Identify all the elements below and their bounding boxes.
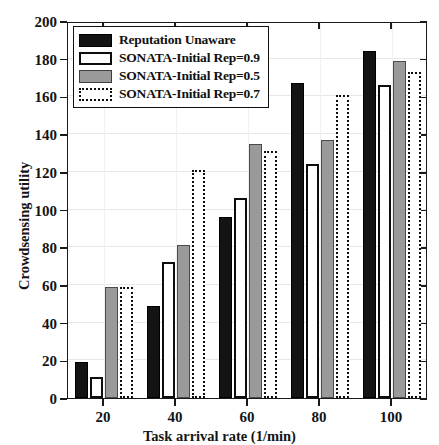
x-axis-tick-label: 40 (168, 409, 183, 426)
y-axis-tick-label: 40 (42, 317, 57, 332)
y-axis-tick (60, 323, 67, 325)
legend-label: SONATA-Initial Rep=0.9 (119, 50, 260, 66)
bar-80-series-2 (321, 140, 334, 398)
y-axis-tick-right (420, 134, 427, 136)
bar-80-series-3 (336, 95, 349, 398)
y-axis-tick (60, 134, 67, 136)
bar-100-series-2 (393, 61, 406, 398)
bar-20-series-0 (75, 362, 88, 398)
y-axis-tick-label: 60 (42, 279, 57, 294)
y-axis-tick-label: 20 (42, 354, 57, 369)
y-axis-tick-right (420, 210, 427, 212)
bar-100-series-0 (363, 51, 376, 398)
y-axis-tick-right (420, 97, 427, 99)
bar-40-series-2 (177, 245, 190, 398)
y-axis-tick (60, 97, 67, 99)
bar-60-series-1 (234, 198, 247, 398)
bar-20-series-2 (105, 287, 118, 398)
bar-20-series-3 (120, 287, 133, 398)
x-axis-tick-label: 100 (380, 409, 403, 426)
y-axis-tick-label: 120 (35, 166, 58, 181)
y-axis-tick-right (420, 398, 427, 400)
y-axis-tick (60, 210, 67, 212)
chart-legend: Reputation UnawareSONATA-Initial Rep=0.9… (73, 26, 269, 108)
y-axis-tick-label: 160 (35, 90, 58, 105)
y-axis-tick-label: 140 (35, 128, 58, 143)
bar-100-series-1 (378, 85, 391, 398)
x-axis-tick (102, 399, 104, 406)
legend-item: SONATA-Initial Rep=0.7 (79, 85, 260, 103)
y-axis-tick-right (420, 323, 427, 325)
legend-swatch-icon (79, 52, 112, 65)
y-axis-tick-label: 80 (42, 241, 57, 256)
x-axis-tick (246, 399, 248, 406)
legend-swatch-icon (79, 70, 112, 83)
y-axis-title: Crowdsensing utility (16, 162, 33, 290)
y-axis-tick (60, 172, 67, 174)
bar-40-series-1 (162, 262, 175, 398)
y-axis-tick-label: 0 (50, 392, 58, 407)
y-axis-tick-right (420, 172, 427, 174)
x-axis-tick-label: 60 (240, 409, 255, 426)
y-axis-tick (60, 21, 67, 23)
bar-80-series-0 (291, 83, 304, 398)
y-axis-tick-right (420, 361, 427, 363)
bar-40-series-3 (192, 170, 205, 398)
x-axis-tick (390, 399, 392, 406)
y-axis-tick (60, 247, 67, 249)
x-axis-title: Task arrival rate (1/min) (0, 428, 439, 445)
x-axis-tick (174, 399, 176, 406)
x-axis-tick-label: 80 (312, 409, 327, 426)
legend-item: Reputation Unaware (79, 31, 260, 49)
y-axis-tick-right (420, 285, 427, 287)
bar-60-series-0 (219, 217, 232, 398)
legend-label: SONATA-Initial Rep=0.5 (119, 68, 260, 84)
y-axis-tick-label: 200 (35, 15, 58, 30)
y-axis-tick-right (420, 21, 427, 23)
bar-60-series-3 (264, 151, 277, 398)
x-axis-tick-label: 20 (96, 409, 111, 426)
bar-20-series-1 (90, 377, 103, 398)
y-axis-tick (60, 285, 67, 287)
y-axis-tick-label: 180 (35, 53, 58, 68)
bar-60-series-2 (249, 144, 262, 398)
y-axis-tick (60, 398, 67, 400)
legend-swatch-icon (79, 88, 112, 101)
legend-item: SONATA-Initial Rep=0.5 (79, 67, 260, 85)
y-axis-tick-right (420, 247, 427, 249)
legend-label: Reputation Unaware (119, 32, 236, 48)
y-axis-tick (60, 361, 67, 363)
x-axis-tick-top (390, 22, 392, 29)
legend-swatch-icon (79, 34, 112, 47)
x-axis-tick (318, 399, 320, 406)
bar-100-series-3 (408, 72, 421, 398)
y-axis-tick-right (420, 59, 427, 61)
legend-label: SONATA-Initial Rep=0.7 (119, 86, 260, 102)
x-axis-tick-top (318, 22, 320, 29)
y-axis-tick (60, 59, 67, 61)
bar-40-series-0 (147, 306, 160, 398)
bar-80-series-1 (306, 164, 319, 398)
y-axis-tick-label: 100 (35, 204, 58, 219)
legend-item: SONATA-Initial Rep=0.9 (79, 49, 260, 67)
